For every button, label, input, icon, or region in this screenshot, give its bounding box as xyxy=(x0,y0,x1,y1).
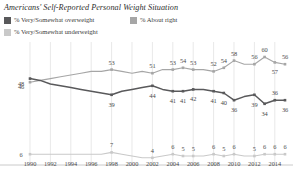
legend-swatch-about-right xyxy=(130,17,137,24)
data-label-underweight: 6 xyxy=(19,151,22,158)
x-axis: 1990199219941996199820002002200420062008… xyxy=(0,158,293,172)
x-axis-tick: 2008 xyxy=(207,160,220,167)
x-axis-tick: 2010 xyxy=(228,160,241,167)
data-label-overweight: 34 xyxy=(261,109,267,116)
data-label-overweight: 39 xyxy=(108,100,114,107)
data-label-overweight: 36 xyxy=(231,106,237,113)
data-label-overweight: 36 xyxy=(282,106,288,113)
chart-title: Americans' Self-Reported Personal Weight… xyxy=(4,3,178,12)
data-label-overweight: 44 xyxy=(149,91,155,98)
x-axis-tick: 1996 xyxy=(85,160,98,167)
data-label-overweight: 41 xyxy=(210,97,216,104)
x-axis-tick: 1994 xyxy=(65,160,78,167)
plot-svg xyxy=(0,40,293,173)
x-axis-tick: 2006 xyxy=(187,160,200,167)
data-label-underweight: 4 xyxy=(151,146,154,153)
data-label-overweight: 41 xyxy=(180,97,186,104)
data-label-underweight: 5 xyxy=(253,145,256,152)
data-label-underweight: 6 xyxy=(273,143,276,150)
x-axis-tick: 1998 xyxy=(105,160,118,167)
x-axis-tick: 1992 xyxy=(44,160,57,167)
data-label-overweight: 42 xyxy=(190,95,196,102)
data-label-underweight: 5 xyxy=(181,145,184,152)
data-label-about-right: 56 xyxy=(251,53,257,60)
data-label-about-right: 53 xyxy=(170,58,176,65)
data-label-about-right: 53 xyxy=(190,58,196,65)
legend-swatch-underweight xyxy=(4,29,11,36)
data-label-underweight: 7 xyxy=(110,141,113,148)
data-label-overweight: 40 xyxy=(221,99,227,106)
legend-label-about-right: % About right xyxy=(140,16,177,24)
legend-item-overweight: % Very/Somewhat overweight xyxy=(4,16,94,24)
data-label-about-right: 58 xyxy=(231,49,237,56)
data-label-underweight: 6 xyxy=(232,143,235,150)
data-label-about-right: 57 xyxy=(272,68,278,75)
data-label-underweight: 6 xyxy=(283,143,286,150)
data-label-about-right: 54 xyxy=(221,56,227,63)
legend-item-about-right: % About right xyxy=(130,16,177,24)
data-label-overweight: 39 xyxy=(251,100,257,107)
data-label-underweight: 6 xyxy=(263,143,266,150)
data-label-underweight: 6 xyxy=(212,143,215,150)
plot-area: 4839444141424140363934363646535153545352… xyxy=(0,40,293,173)
x-axis-tick: 2004 xyxy=(167,160,180,167)
data-label-underweight: 5 xyxy=(222,145,225,152)
data-label-underweight: 6 xyxy=(171,143,174,150)
data-label-underweight: 5 xyxy=(192,145,195,152)
data-label-about-right: 51 xyxy=(149,62,155,69)
data-label-about-right: 60 xyxy=(261,46,267,53)
data-label-about-right: 46 xyxy=(18,83,24,90)
legend-label-underweight: % Very/Somewhat underweight xyxy=(14,28,98,36)
x-axis-tick: 2002 xyxy=(146,160,159,167)
weight-situation-chart: Americans' Self-Reported Personal Weight… xyxy=(0,0,293,173)
legend-label-overweight: % Very/Somewhat overweight xyxy=(14,16,94,24)
x-axis-tick: 2000 xyxy=(126,160,139,167)
data-label-about-right: 56 xyxy=(282,53,288,60)
legend-swatch-overweight xyxy=(4,17,11,24)
x-axis-tick: 2012 xyxy=(248,160,261,167)
x-axis-tick: 2014 xyxy=(269,160,282,167)
legend-item-underweight: % Very/Somewhat underweight xyxy=(4,28,98,36)
data-label-overweight: 36 xyxy=(272,89,278,96)
data-label-about-right: 52 xyxy=(210,60,216,67)
data-label-overweight: 41 xyxy=(170,97,176,104)
x-axis-tick: 1990 xyxy=(24,160,37,167)
data-label-about-right: 53 xyxy=(108,58,114,65)
data-label-about-right: 54 xyxy=(180,56,186,63)
